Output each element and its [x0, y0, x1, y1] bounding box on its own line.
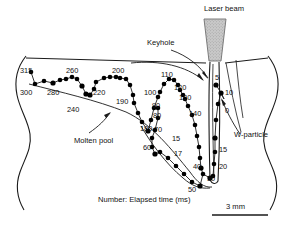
top-surface-right	[225, 58, 268, 63]
time-label: 50	[188, 186, 196, 193]
keyhole-leader-line	[171, 50, 208, 78]
time-label: 280	[47, 89, 59, 96]
time-label: 17	[174, 150, 182, 157]
time-label: 315	[20, 67, 32, 74]
laser-beam-cone	[204, 19, 226, 61]
time-label: 80	[153, 112, 161, 119]
figure-caption: Number: Elapsed time (ms)	[98, 196, 190, 204]
time-label: 100	[144, 89, 156, 96]
time-label: 140	[189, 110, 201, 117]
scale-bar-label: 3 mm	[226, 203, 245, 211]
trajectory-upper-left	[31, 72, 148, 131]
time-label: 15	[172, 135, 180, 142]
time-label: 200	[112, 67, 124, 74]
time-label: 190	[116, 98, 128, 105]
time-label: 260	[66, 67, 78, 74]
time-label: 0	[225, 107, 229, 114]
figure-container: Laser beam Keyhole Molten pool W-particl…	[0, 0, 295, 228]
time-label: 5	[215, 74, 219, 81]
time-label: 10	[225, 89, 233, 96]
time-label: 110	[161, 71, 173, 78]
keyhole-label: Keyhole	[147, 39, 174, 47]
time-label: 120	[174, 84, 186, 91]
keyhole-arrowhead-2	[197, 73, 204, 81]
time-label: 220	[93, 89, 105, 96]
surface-guide-line-2	[236, 60, 243, 118]
laser-beam-label: Laser beam	[204, 5, 244, 13]
time-label: 70	[154, 126, 162, 133]
surface-guide-line-1	[226, 63, 241, 132]
time-label: 20	[219, 163, 227, 170]
time-label: 30	[207, 175, 215, 182]
keyhole-arrowhead	[202, 71, 208, 79]
time-label: 180	[140, 125, 152, 132]
keyhole-inner-wall	[213, 64, 214, 178]
specimen-left-edge	[16, 56, 30, 210]
molten-pool-arrowhead	[104, 112, 111, 118]
time-label: 15	[219, 146, 227, 153]
top-surface-left	[26, 58, 206, 63]
time-label: 40	[193, 163, 201, 170]
molten-pool-label: Molten pool	[74, 137, 113, 145]
time-label: 240	[67, 106, 79, 113]
time-label: 60	[143, 144, 151, 151]
time-label: 130	[179, 94, 191, 101]
time-label: 300	[20, 89, 32, 96]
w-particle-label: W-particle	[234, 131, 268, 139]
diagram-canvas	[0, 0, 295, 228]
time-label: 90	[152, 102, 160, 109]
w-particle-arrowhead	[221, 98, 226, 106]
